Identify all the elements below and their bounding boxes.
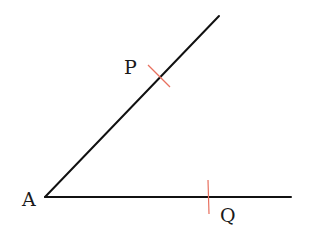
- arc-mark-q: [208, 180, 209, 214]
- label-q: Q: [220, 204, 236, 226]
- label-a: A: [21, 188, 36, 210]
- angle-diagram: A P Q: [0, 0, 313, 227]
- label-p: P: [124, 56, 137, 78]
- diagram-svg: A P Q: [0, 0, 313, 227]
- ray-ap: [45, 16, 219, 197]
- arc-mark-p: [148, 65, 170, 87]
